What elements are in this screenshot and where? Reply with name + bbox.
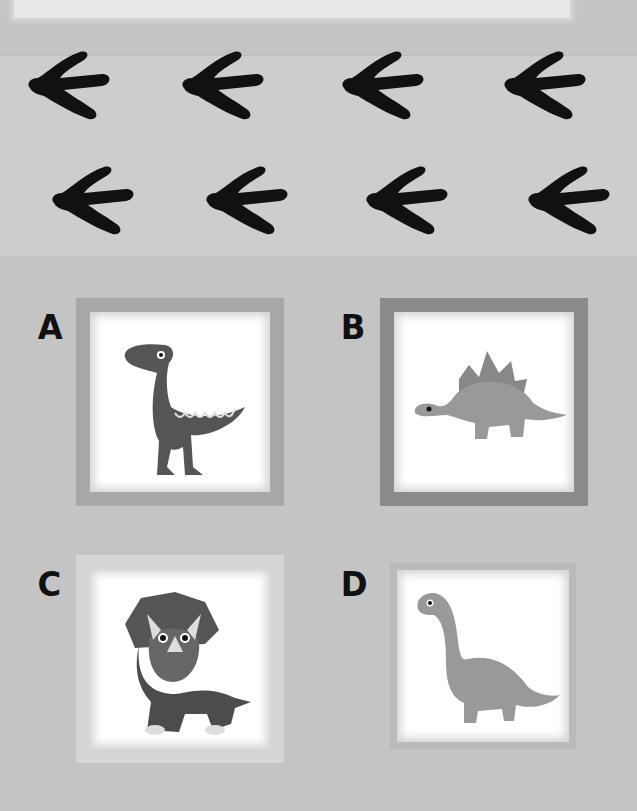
- dinosaur-footprint-icon: [202, 165, 292, 237]
- option-a-card[interactable]: [76, 298, 284, 506]
- option-b-label: B: [341, 310, 366, 344]
- option-c-card[interactable]: [76, 555, 284, 763]
- dinosaur-footprint-icon: [500, 50, 590, 122]
- stegosaurus-icon: [399, 317, 569, 487]
- raptor-icon: [95, 317, 265, 487]
- dinosaur-footprint-icon: [338, 50, 428, 122]
- option-b-card[interactable]: [380, 298, 588, 506]
- dinosaur-footprint-icon: [48, 165, 138, 237]
- option-c-label: C: [38, 567, 62, 601]
- option-a-label: A: [38, 310, 63, 344]
- brachiosaurus-icon: [398, 571, 568, 741]
- dinosaur-footprint-icon: [24, 50, 114, 122]
- option-d-label: D: [341, 567, 368, 601]
- dinosaur-footprint-icon: [524, 165, 614, 237]
- top-panel: [14, 0, 570, 18]
- dinosaur-footprint-icon: [178, 50, 268, 122]
- triceratops-icon: [95, 574, 265, 744]
- option-d-card[interactable]: [390, 563, 576, 749]
- dinosaur-footprint-icon: [362, 165, 452, 237]
